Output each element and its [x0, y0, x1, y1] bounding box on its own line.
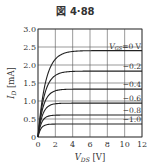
curve-label: VGS=0 V	[109, 42, 141, 52]
x-tick-label: 4	[70, 140, 75, 149]
x-tick-label: 6	[87, 140, 92, 149]
x-tick-label: 10	[120, 140, 130, 149]
curve-label: −0.8	[123, 106, 141, 115]
y-tick-label: 0.5	[23, 115, 36, 124]
x-tick-label: 0	[35, 140, 40, 149]
y-tick-label: 1.0	[23, 97, 36, 106]
x-axis-label: VDS [V]	[75, 152, 106, 163]
y-tick-label: 2.0	[23, 61, 36, 70]
curve-label: −0.6	[123, 94, 141, 103]
id-vds-chart: 02468101200.51.01.52.02.53.0VDS [V]ID [m…	[0, 0, 151, 168]
y-tick-label: 1.5	[23, 79, 36, 88]
y-tick-label: 3.0	[23, 25, 36, 34]
curve-label: −1.0	[123, 115, 141, 124]
y-axis-label: ID [mA]	[6, 67, 17, 100]
y-tick-label: 2.5	[23, 43, 36, 52]
x-tick-label: 12	[137, 140, 147, 149]
y-tick-label: 0	[31, 133, 36, 142]
curve-label: −0.2	[123, 62, 141, 71]
x-tick-label: 2	[53, 140, 58, 149]
x-tick-label: 8	[105, 140, 110, 149]
curve-label: −0.4	[123, 80, 141, 89]
